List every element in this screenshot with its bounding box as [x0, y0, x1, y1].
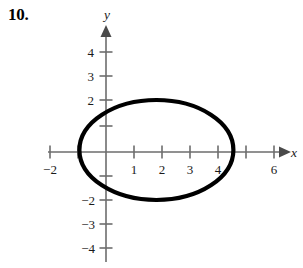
y-tick-label-2: 2 [88, 93, 95, 108]
x-tick-label-1: 1 [131, 162, 138, 177]
y-tick-label-3: 3 [88, 69, 95, 84]
y-tick-label-minus2: −2 [81, 193, 95, 208]
x-tick-label-minus2: −2 [43, 162, 57, 177]
x-axis-label: x [290, 145, 297, 160]
y-axis-label: y [102, 7, 110, 22]
y-tick-label-minus4: −4 [81, 241, 95, 256]
x-axis-arrowhead [279, 147, 291, 158]
ellipse-curve [79, 100, 233, 200]
y-tick-label-minus3: −3 [81, 217, 95, 232]
y-tick-label-4: 4 [88, 45, 95, 60]
x-tick-label-2: 2 [159, 162, 166, 177]
x-tick-label-3: 3 [187, 162, 194, 177]
graph-figure: 10. −2 1 2 3 4 6 4 [0, 0, 303, 268]
coordinate-plane-svg: −2 1 2 3 4 6 4 3 2 −2 −3 −4 x y [0, 0, 303, 268]
y-axis-arrowhead [101, 25, 112, 37]
x-tick-label-6: 6 [271, 162, 278, 177]
